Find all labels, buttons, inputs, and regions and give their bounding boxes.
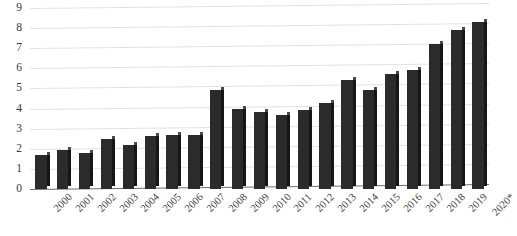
bar-side-shadow [484, 19, 487, 186]
bar-face [385, 74, 396, 189]
x-axis-tick-label: 2009 [249, 192, 271, 214]
bar-side-shadow [353, 77, 356, 186]
bar-face [407, 70, 418, 189]
bar[interactable] [123, 145, 134, 189]
bar-side-shadow [374, 87, 377, 186]
x-axis-tick-label: 2013 [336, 192, 358, 214]
bar-top-highlight [156, 133, 159, 136]
x-axis-tick-label: 2020* [491, 192, 517, 218]
x-axis-tick-label: 2019 [467, 192, 489, 214]
bar-face [166, 135, 177, 189]
y-axis-tick-label: 8 [16, 22, 22, 34]
bar[interactable] [276, 115, 287, 189]
bar-side-shadow [221, 87, 224, 186]
y-axis: 0123456789 [0, 0, 30, 196]
bar-top-highlight [134, 142, 137, 145]
bar-face [341, 80, 352, 189]
bar[interactable] [385, 74, 396, 189]
bar-face [276, 115, 287, 189]
bar[interactable] [472, 22, 483, 189]
bar[interactable] [451, 30, 462, 189]
bar-top-highlight [440, 41, 443, 44]
bar-side-shadow [396, 71, 399, 186]
bar-face [254, 112, 265, 189]
bar[interactable] [145, 136, 156, 189]
x-axis-tick-label: 2010 [271, 192, 293, 214]
bar[interactable] [188, 135, 199, 189]
bar[interactable] [166, 135, 177, 189]
x-axis-tick-label: 2016 [402, 192, 424, 214]
x-axis-tick-label: 2007 [205, 192, 227, 214]
y-axis-tick-label: 9 [16, 2, 22, 14]
x-axis-tick-label: 2000 [52, 192, 74, 214]
bar-face [123, 145, 134, 189]
bar[interactable] [341, 80, 352, 189]
x-axis-tick-label: 2006 [183, 192, 205, 214]
bar[interactable] [210, 90, 221, 189]
bar-face [188, 135, 199, 189]
plot-area [30, 8, 489, 189]
bar-face [79, 153, 90, 189]
bar-side-shadow [112, 136, 115, 186]
bar[interactable] [363, 90, 374, 189]
bar[interactable] [35, 155, 46, 189]
bar[interactable] [79, 153, 90, 189]
x-axis-tick-label: 2005 [161, 192, 183, 214]
bar-top-highlight [112, 136, 115, 139]
bar-face [101, 139, 112, 189]
x-axis: 2000200120022003200420052006200720082009… [30, 190, 489, 236]
x-axis-tick-label: 2008 [227, 192, 249, 214]
bar-top-highlight [309, 107, 312, 110]
bar-face [429, 44, 440, 189]
y-axis-tick-label: 3 [16, 123, 22, 135]
bar-top-highlight [374, 87, 377, 90]
bar-face [35, 155, 46, 189]
bar-face [145, 136, 156, 189]
bar[interactable] [319, 103, 330, 189]
y-axis-tick-label: 2 [16, 143, 22, 155]
bar-face [472, 22, 483, 189]
x-axis-tick-label: 2017 [424, 192, 446, 214]
bar[interactable] [254, 112, 265, 189]
bar-side-shadow [331, 100, 334, 186]
y-axis-tick-label: 0 [16, 183, 22, 195]
x-axis-tick-label: 2001 [74, 192, 96, 214]
bar[interactable] [429, 44, 440, 189]
bar-side-shadow [178, 132, 181, 186]
bar-top-highlight [331, 100, 334, 103]
x-axis-tick-label: 2003 [118, 192, 140, 214]
bar-top-highlight [200, 132, 203, 135]
bar[interactable] [298, 110, 309, 189]
bar-series [30, 8, 489, 189]
bar-side-shadow [68, 147, 71, 186]
bar[interactable] [407, 70, 418, 189]
bar[interactable] [101, 139, 112, 189]
bar-top-highlight [462, 27, 465, 30]
bar[interactable] [57, 150, 68, 189]
bar-top-highlight [47, 152, 50, 155]
x-axis-tick-label: 2002 [96, 192, 118, 214]
bar-top-highlight [484, 19, 487, 22]
bar-top-highlight [221, 87, 224, 90]
bar-side-shadow [90, 150, 93, 186]
bar-side-shadow [134, 142, 137, 186]
bar-face [232, 109, 243, 189]
bar-top-highlight [68, 147, 71, 150]
bar-top-highlight [287, 112, 290, 115]
bar-top-highlight [178, 132, 181, 135]
y-axis-tick-label: 4 [16, 103, 22, 115]
x-axis-tick-label: 2011 [293, 192, 315, 214]
bar-side-shadow [309, 107, 312, 186]
x-axis-tick-label: 2012 [314, 192, 336, 214]
bar-side-shadow [440, 41, 443, 186]
x-axis-tick-label: 2018 [446, 192, 468, 214]
bar-face [298, 110, 309, 189]
bar[interactable] [232, 109, 243, 189]
bar-side-shadow [418, 67, 421, 186]
bar-face [363, 90, 374, 189]
bar-top-highlight [418, 67, 421, 70]
bar-side-shadow [243, 106, 246, 186]
bar-side-shadow [265, 109, 268, 186]
bar-side-shadow [200, 132, 203, 186]
